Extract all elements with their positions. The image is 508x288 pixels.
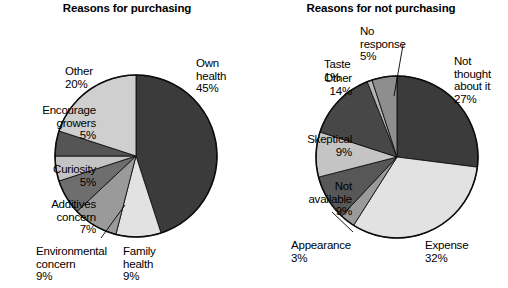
- chart-panel-purchasing: Reasons for purchasing Own health 45%Fam…: [0, 0, 254, 288]
- chart-panel-not-purchasing: Reasons for not purchasing Not thought a…: [254, 0, 508, 288]
- slice-label-encourage-growers: Encourage growers 5%: [0, 104, 96, 142]
- slice-label-additives-concern: Additives concern 7%: [0, 198, 96, 236]
- slice-label-environmental-concern: Environmental concern 9%: [36, 245, 107, 283]
- slice-label-other: Other 20%: [65, 65, 93, 90]
- slice-label-expense: Expense 32%: [425, 239, 468, 264]
- slice-label-curiosity: Curiosity 5%: [0, 163, 96, 188]
- slice-label-not-available: Not available 9%: [254, 180, 352, 218]
- slice-label-own-health: Own health 45%: [196, 57, 226, 95]
- slice-label-not-thought-about-it: Not thought about it 27%: [454, 55, 491, 105]
- slice-label-appearance: Appearance 3%: [291, 239, 351, 264]
- slice-label-family-health: Family health 9%: [123, 245, 156, 283]
- slice-label-skeptical: Skeptical 9%: [254, 133, 352, 158]
- slice-label-no-response: No response 5%: [360, 25, 406, 63]
- slice-label-taste: Taste 1%: [324, 58, 351, 83]
